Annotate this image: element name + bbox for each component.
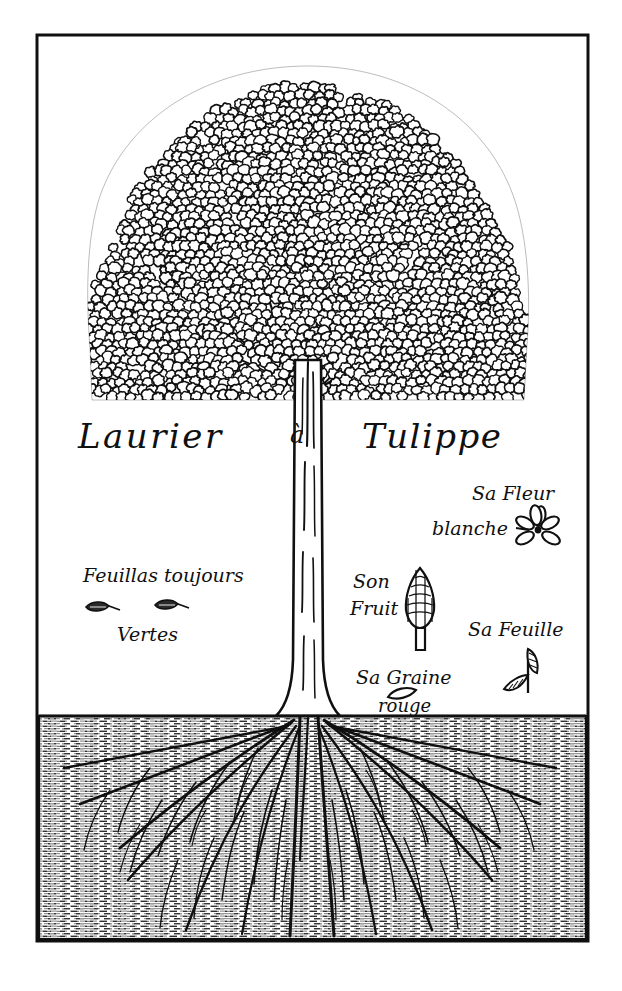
title-left: Laurier <box>77 416 224 456</box>
title-middle: à <box>290 421 304 449</box>
title-right: Tulippe <box>362 416 502 456</box>
plate-canvas: Laurier à Tulippe Sa Fleur blanche Feuil… <box>0 0 622 991</box>
annotation-leaf-line-1: Sa Feuille <box>468 618 563 640</box>
soil-texture-overlay <box>39 716 586 939</box>
annotation-flower-line-2: blanche <box>432 517 508 539</box>
annotation-foliage-line-1: Feuillas toujours <box>82 564 244 586</box>
botanical-plate: Laurier à Tulippe Sa Fleur blanche Feuil… <box>0 0 622 991</box>
annotation-foliage-line-2: Vertes <box>117 623 178 645</box>
annotation-flower-line-1: Sa Fleur <box>472 482 556 504</box>
annotation-fruit-line-2: Fruit <box>349 597 399 619</box>
ground-and-roots <box>39 716 586 939</box>
annotation-fruit-line-1: Son <box>353 570 390 592</box>
annotation-seed-line-1: Sa Graine <box>356 666 452 688</box>
